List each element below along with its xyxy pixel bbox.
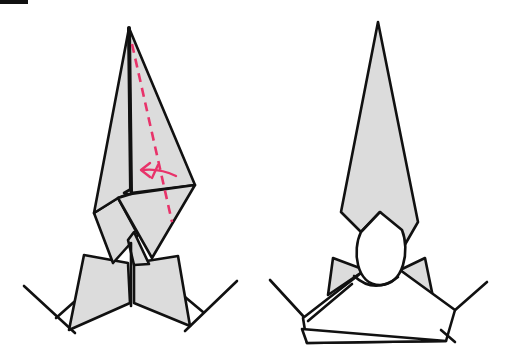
bottom-left-flap (69, 255, 130, 330)
right-guide-line (454, 282, 487, 311)
step-a-figure (24, 28, 237, 333)
upper-left-panel (94, 28, 131, 213)
bottom-right-flap (134, 256, 190, 326)
center-fold (129, 28, 131, 193)
origami-diagram (0, 0, 509, 362)
step-b-figure (270, 22, 487, 343)
left-guide-line (270, 280, 304, 317)
right-guide-line (185, 281, 237, 331)
upper-right-panel (129, 28, 195, 193)
